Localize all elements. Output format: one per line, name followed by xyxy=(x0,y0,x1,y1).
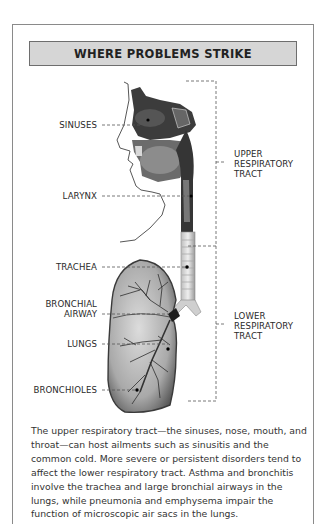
label-airway-line2: AIRWAY xyxy=(30,309,97,319)
upper-line2: RESPIRATORY xyxy=(234,159,293,169)
throat xyxy=(176,130,194,232)
upper-line1: UPPER xyxy=(234,149,293,159)
label-bronchioles: BRONCHIOLES xyxy=(20,385,97,395)
label-upper-respiratory-tract: UPPER RESPIRATORY TRACT xyxy=(234,149,293,179)
lower-line2: RESPIRATORY xyxy=(234,321,293,331)
upper-line3: TRACT xyxy=(234,169,293,179)
label-bronchial-airway: BRONCHIAL AIRWAY xyxy=(30,299,97,319)
label-lower-respiratory-tract: LOWER RESPIRATORY TRACT xyxy=(234,311,293,341)
label-lungs: LUNGS xyxy=(40,339,97,349)
label-larynx: LARYNX xyxy=(40,191,97,201)
label-sinuses: SINUSES xyxy=(40,120,97,130)
caption-text: The upper respiratory tract—the sinuses,… xyxy=(31,424,307,521)
lung xyxy=(108,260,180,412)
label-bronchial-line1: BRONCHIAL xyxy=(30,299,97,309)
lower-line3: TRACT xyxy=(234,331,293,341)
label-trachea: TRACHEA xyxy=(40,262,97,272)
lower-line1: LOWER xyxy=(234,311,293,321)
